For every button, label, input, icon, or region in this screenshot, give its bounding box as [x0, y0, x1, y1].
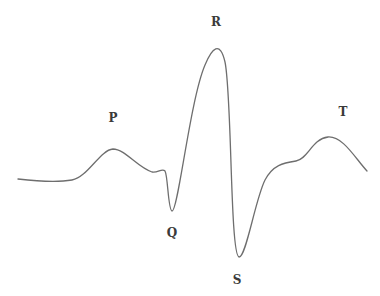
ecg-diagram: P Q R S T	[0, 0, 380, 296]
label-t-wave: T	[339, 106, 348, 118]
ecg-waveform-svg	[0, 0, 380, 296]
label-r-wave: R	[211, 16, 221, 28]
ecg-waveform-line	[18, 49, 367, 257]
label-s-wave: S	[233, 274, 242, 286]
label-q-wave: Q	[167, 227, 177, 239]
label-p-wave: P	[108, 112, 117, 124]
